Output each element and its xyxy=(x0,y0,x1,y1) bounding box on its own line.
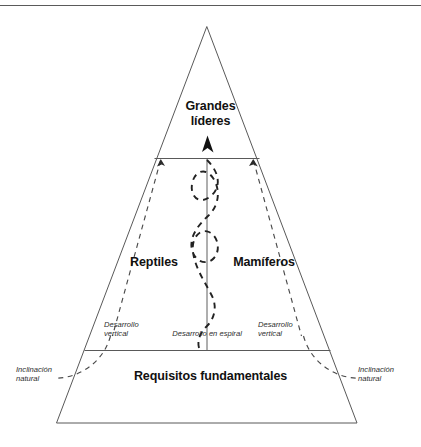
label-desarrollo-vertical-right-line2: vertical xyxy=(258,330,336,339)
spiral-development-curve xyxy=(191,160,218,348)
label-inclinacion-natural-left-line2: natural xyxy=(16,375,86,384)
label-inclinacion-natural-right: Inclinación natural xyxy=(358,366,421,384)
arrow-up-icon xyxy=(202,136,214,153)
label-mamiferos: Mamíferos xyxy=(217,255,311,270)
arrow-up-right-icon xyxy=(249,159,258,167)
label-grandes-lideres: Grandes líderes xyxy=(0,99,421,129)
label-inclinacion-natural-right-line2: natural xyxy=(358,375,421,384)
label-inclinacion-natural-left: Inclinación natural xyxy=(16,366,86,384)
label-grandes-lideres-line1: Grandes xyxy=(0,99,421,114)
label-desarrollo-en-espiral: Desarrollo en espiral xyxy=(141,330,273,339)
arrow-up-left-icon xyxy=(157,159,165,167)
pyramid-diagram: Grandes líderes Reptiles Mamíferos Requi… xyxy=(0,0,421,447)
dashed-vertical-right xyxy=(254,161,302,337)
dashed-vertical-left xyxy=(113,161,161,337)
label-reptiles: Reptiles xyxy=(112,255,196,270)
label-grandes-lideres-line2: líderes xyxy=(0,114,421,129)
label-desarrollo-vertical-right: Desarrollo vertical xyxy=(258,321,336,339)
